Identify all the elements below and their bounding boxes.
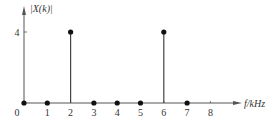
x-tick-label: 7 xyxy=(185,107,190,118)
stem-marker xyxy=(91,100,96,105)
x-axis-arrow-icon xyxy=(233,101,242,105)
stem-marker xyxy=(115,100,120,105)
y-tick-label: 4 xyxy=(15,27,20,38)
x-tick-label: 8 xyxy=(208,107,213,118)
axes xyxy=(22,6,242,105)
x-axis-label: f/kHz xyxy=(244,98,265,109)
x-tick-label: 4 xyxy=(115,107,120,118)
y-axis-arrow-icon xyxy=(22,6,26,15)
x-tick-label: 2 xyxy=(68,107,73,118)
x-tick-label: 6 xyxy=(161,107,166,118)
stem-marker xyxy=(68,29,73,34)
x-tick-label: 0 xyxy=(15,107,20,118)
stem-marker xyxy=(161,29,166,34)
stems xyxy=(21,29,189,105)
stem-chart: 0123456784|X(k)|f/kHz xyxy=(0,0,280,121)
y-axis-label: |X(k)| xyxy=(30,3,53,15)
stem-marker xyxy=(185,100,190,105)
stem-marker xyxy=(21,100,26,105)
x-tick-label: 3 xyxy=(91,107,96,118)
x-tick-label: 5 xyxy=(138,107,143,118)
stem-marker xyxy=(45,100,50,105)
x-tick-label: 1 xyxy=(45,107,50,118)
stem-marker xyxy=(138,100,143,105)
